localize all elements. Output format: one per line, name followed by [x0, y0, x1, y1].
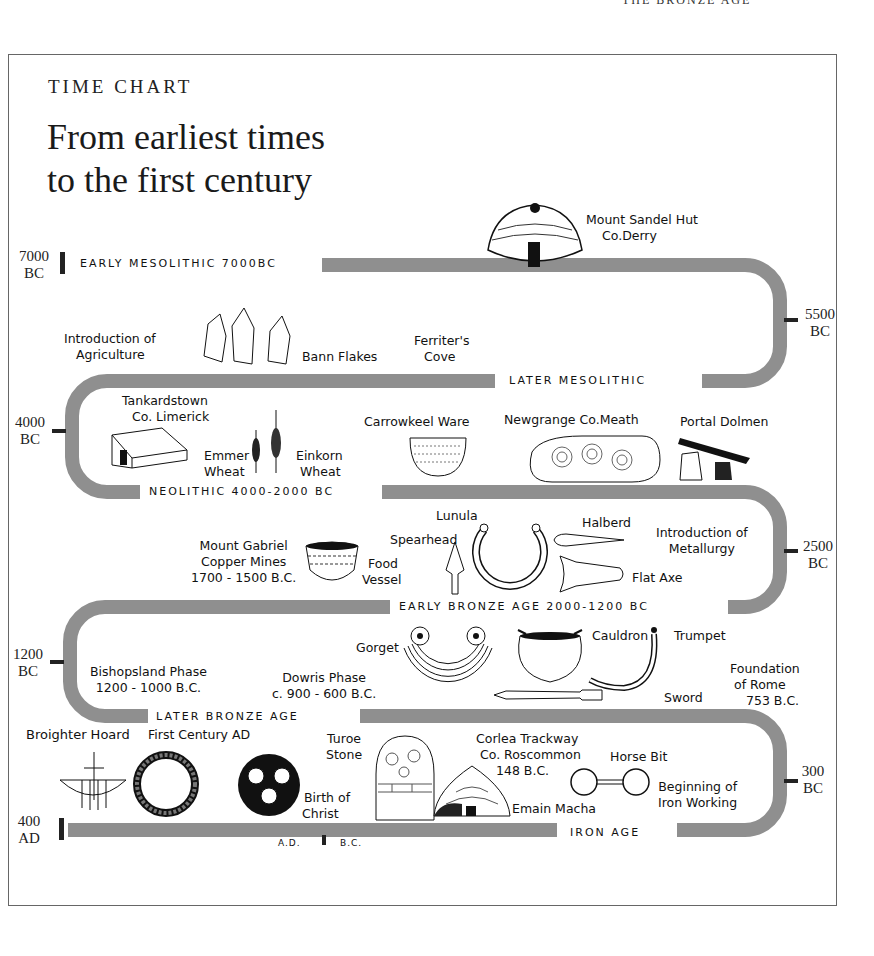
- tick-400ad: [59, 818, 64, 840]
- period-neolithic: NEOLITHIC 4000-2000 BC: [145, 485, 338, 498]
- label-gorget: Gorget: [356, 640, 399, 656]
- label-sword: Sword: [664, 690, 703, 706]
- tick-4000bc: [52, 429, 66, 433]
- label-mount-gabriel: Mount Gabriel Copper Mines 1700 - 1500 B…: [191, 538, 296, 586]
- tankardstown-house-illustration: [92, 420, 202, 470]
- flat-axe-illustration: [556, 554, 628, 594]
- label-birth-of-christ: Birth of Christ: [302, 790, 350, 822]
- label-halberd: Halberd: [582, 515, 631, 531]
- mount-sandel-hut-illustration: [480, 200, 590, 275]
- date-1200bc: 1200BC: [8, 646, 48, 680]
- period-later-mesolithic: LATER MESOLITHIC: [505, 374, 650, 387]
- label-intro-metallurgy: Introduction of Metallurgy: [656, 525, 748, 557]
- date-5500bc: 5500BC: [800, 306, 840, 340]
- period-later-bronze-age: LATER BRONZE AGE: [152, 710, 303, 723]
- label-carrowkeel-ware: Carrowkeel Ware: [364, 414, 469, 430]
- label-iron-working: Beginning of Iron Working: [658, 779, 737, 811]
- label-flat-axe: Flat Axe: [632, 570, 682, 586]
- period-early-bronze-age: EARLY BRONZE AGE 2000-1200 BC: [395, 600, 653, 613]
- era-ad: A.D.: [278, 838, 301, 848]
- label-foundation-of-rome: Foundation of Rome 753 B.C.: [730, 661, 800, 709]
- era-bc: B.C.: [340, 838, 362, 848]
- wheat-illustration: [248, 405, 288, 477]
- halberd-illustration: [552, 532, 627, 550]
- label-ferriters-cove: Ferriter's Cove: [414, 333, 469, 365]
- tick-2500bc: [784, 549, 798, 553]
- broighter-collar-illustration: [132, 750, 200, 818]
- tick-5500bc: [784, 318, 798, 322]
- label-einkorn-wheat: Einkorn Wheat: [296, 448, 343, 480]
- trumpet-illustration: [584, 624, 674, 694]
- carrowkeel-pot-illustration: [408, 436, 468, 478]
- cauldron-illustration: [512, 624, 588, 686]
- gorget-illustration: [402, 624, 494, 704]
- broighter-boat-illustration: [58, 750, 128, 818]
- date-2500bc: 2500BC: [798, 538, 838, 572]
- label-first-century: First Century AD: [148, 727, 250, 743]
- date-7000bc: 7000BC: [14, 248, 54, 282]
- newgrange-stone-illustration: [522, 432, 662, 486]
- label-dowris: Dowris Phase c. 900 - 600 B.C.: [272, 670, 376, 702]
- date-300bc: 300BC: [796, 763, 830, 797]
- label-corlea-trackway: Corlea Trackway Co. Roscommon 148 B.C.: [476, 731, 581, 779]
- label-food-vessel: Food Vessel: [362, 556, 401, 588]
- date-400ad: 400AD: [12, 813, 46, 847]
- portal-dolmen-illustration: [660, 432, 755, 484]
- label-bishopsland: Bishopsland Phase 1200 - 1000 B.C.: [90, 664, 207, 696]
- lunula-illustration: [472, 522, 548, 594]
- label-portal-dolmen: Portal Dolmen: [680, 414, 768, 430]
- era-divider-mark: [322, 835, 326, 845]
- label-trumpet: Trumpet: [674, 628, 726, 644]
- sword-illustration: [492, 688, 604, 702]
- label-horse-bit: Horse Bit: [610, 749, 667, 765]
- label-emain-macha: Emain Macha: [512, 801, 596, 817]
- horse-bit-illustration: [568, 766, 652, 798]
- bronze-disc-illustration: [236, 752, 302, 818]
- turoe-stone-illustration: [372, 734, 438, 824]
- period-iron-age: IRON AGE: [566, 826, 644, 839]
- tick-1200bc: [50, 660, 64, 664]
- tick-7000bc: [60, 252, 65, 274]
- food-vessel-illustration: [302, 540, 362, 590]
- date-4000bc: 4000BC: [10, 414, 50, 448]
- label-newgrange: Newgrange Co.Meath: [504, 412, 639, 428]
- bann-flakes-illustration: [198, 306, 298, 368]
- period-early-mesolithic: EARLY MESOLITHIC 7000BC: [76, 257, 281, 270]
- label-turoe-stone: Turoe Stone: [326, 731, 362, 763]
- label-mount-sandel: Mount Sandel Hut Co.Derry: [586, 212, 698, 244]
- label-emmer-wheat: Emmer Wheat: [204, 448, 249, 480]
- label-bann-flakes: Bann Flakes: [302, 349, 377, 365]
- label-broighter-hoard: Broighter Hoard: [26, 727, 130, 743]
- label-intro-agriculture: Introduction of Agriculture: [64, 331, 156, 363]
- spearhead-illustration: [444, 540, 466, 596]
